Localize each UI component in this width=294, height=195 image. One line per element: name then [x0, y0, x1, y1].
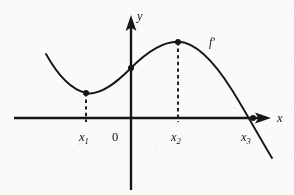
origin-label: 0	[112, 130, 118, 144]
curve-label-f-prime: f'	[209, 35, 215, 49]
tick-label-x1-sub: 1	[85, 136, 89, 146]
figure-canvas: y x 0 f' x1 x2 x3	[0, 0, 294, 195]
x-axis-label: x	[276, 111, 283, 125]
tick-label-x1: x1	[78, 130, 89, 146]
point-y-intercept	[128, 65, 134, 71]
svg-text:x1: x1	[78, 130, 89, 146]
y-axis-label: y	[135, 9, 143, 23]
point-x-intercept	[250, 115, 256, 121]
tick-label-x2: x2	[170, 130, 182, 146]
point-local-minimum	[83, 90, 89, 96]
tick-label-x3: x3	[240, 130, 251, 146]
svg-text:x2: x2	[170, 130, 182, 146]
tick-label-x2-sub: 2	[177, 136, 182, 146]
derivative-graph-svg: y x 0 f' x1 x2 x3	[0, 0, 294, 195]
tick-label-x3-sub: 3	[246, 136, 251, 146]
svg-text:x3: x3	[240, 130, 251, 146]
point-local-maximum	[175, 39, 181, 45]
